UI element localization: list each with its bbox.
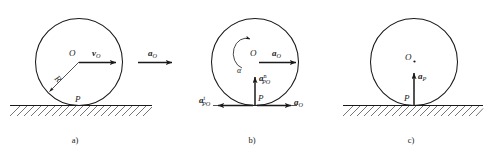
center-label-o: O — [69, 48, 76, 58]
ground-hatching — [343, 106, 483, 116]
panel-a-caption: a) — [72, 135, 79, 145]
velocity-vector-label: vO — [92, 48, 101, 59]
panel-a: R O vO aO P a) — [10, 19, 172, 146]
center-acceleration-label: aO — [272, 48, 282, 59]
figure-canvas: R O vO aO P a) — [0, 0, 495, 156]
ground-hatching — [10, 106, 152, 116]
radius-label: R — [52, 73, 64, 85]
tangential-relative-acceleration-label: atPO — [199, 94, 211, 107]
panel-b: α O aO anPO atPO aO P — [199, 19, 304, 146]
contact-point-label-p: P — [74, 94, 81, 104]
panel-c-ground — [343, 106, 483, 117]
panel-c: O aP P c) — [343, 19, 483, 146]
center-dot — [413, 60, 415, 62]
panel-b-caption: b) — [248, 135, 255, 145]
contact-acceleration-label: aO — [294, 97, 304, 108]
angular-acceleration-arc — [233, 38, 250, 68]
contact-point-label-p: P — [403, 93, 410, 103]
panel-c-caption: c) — [408, 135, 415, 145]
contact-point-acceleration-label: aP — [418, 71, 427, 82]
external-acceleration-label: aO — [148, 48, 158, 59]
physics-figure: R O vO aO P a) — [0, 0, 495, 156]
panel-a-ground — [10, 106, 152, 117]
normal-relative-acceleration-label: anPO — [259, 72, 271, 85]
radius-indicator — [50, 62, 80, 92]
center-label-o: O — [250, 48, 257, 58]
contact-point-label-p: P — [257, 93, 264, 103]
center-label-o: O — [405, 52, 412, 62]
